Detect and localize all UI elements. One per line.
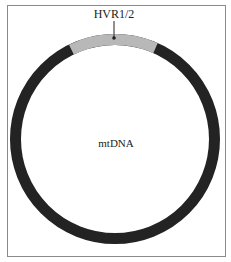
hvr-region-label: HVR1/2 (94, 7, 135, 22)
hvr-pointer-dot (112, 36, 116, 40)
mtdna-ring-diagram (0, 0, 231, 262)
hvr-region-arc (71, 40, 155, 50)
mtdna-center-label: mtDNA (98, 137, 133, 149)
